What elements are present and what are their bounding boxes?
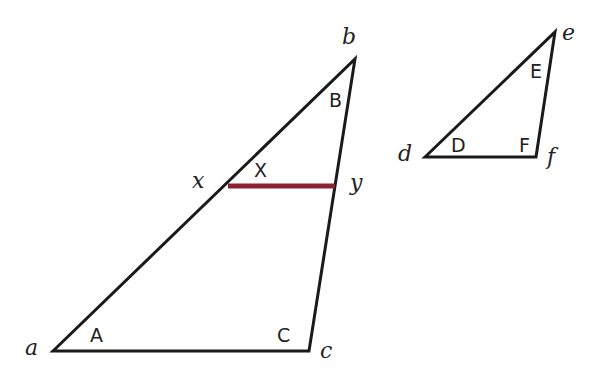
angle-label-E: E [530, 62, 542, 81]
vertex-label-e: e [562, 22, 575, 44]
diagram-canvas: a b c x y A B C X d e f D E F [0, 0, 599, 370]
angle-label-C: C [277, 326, 290, 345]
triangle-def [425, 32, 555, 157]
angle-label-D: D [451, 136, 466, 155]
angle-label-B: B [329, 91, 342, 110]
vertex-label-f: f [547, 146, 555, 168]
vertex-label-d: d [398, 143, 412, 165]
triangle-abc [53, 59, 355, 351]
vertex-label-b: b [342, 26, 356, 48]
diagram-lines [0, 0, 599, 370]
vertex-label-x: x [192, 170, 204, 192]
angle-label-F: F [519, 136, 530, 155]
angle-label-X: X [254, 161, 267, 180]
vertex-label-a: a [25, 337, 38, 359]
vertex-label-y: y [350, 172, 362, 194]
angle-label-A: A [90, 326, 103, 345]
vertex-label-c: c [320, 340, 332, 362]
